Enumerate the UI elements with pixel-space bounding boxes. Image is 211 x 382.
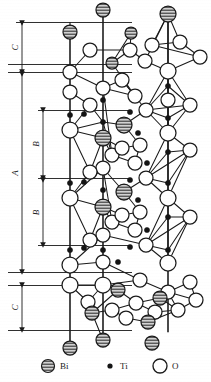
- atom-o-41: [133, 273, 147, 287]
- atom-ti-0: [100, 97, 105, 102]
- atom-ti-22: [144, 227, 149, 232]
- legend-label-bi: Bi: [60, 361, 69, 371]
- atom-ti-6: [165, 115, 170, 120]
- legend-label-o: O: [172, 361, 179, 371]
- atom-o-28: [133, 205, 147, 219]
- atom-o-15: [161, 93, 175, 107]
- atom-bi-14: [96, 333, 110, 347]
- atom-o-24: [128, 156, 142, 170]
- atom-ti-18: [67, 247, 72, 252]
- atom-ti-23: [115, 259, 120, 264]
- atom-ti-12: [165, 149, 170, 154]
- atom-o-50: [119, 311, 133, 325]
- atom-bi-4: [106, 57, 118, 69]
- atom-o-38: [96, 255, 110, 269]
- atom-o-25: [83, 165, 97, 179]
- atom-o-42: [183, 275, 197, 289]
- atom-o-10: [115, 73, 129, 87]
- atom-o-16: [62, 122, 78, 138]
- atom-ti-14: [135, 197, 140, 202]
- atom-o-47: [105, 303, 119, 317]
- atom-o-22: [62, 190, 78, 206]
- atom-o-40: [62, 277, 78, 293]
- atom-bi-6: [95, 130, 111, 146]
- atom-ti-21: [144, 160, 149, 165]
- dimension-label-c-top: C: [10, 44, 20, 51]
- atom-ti-9: [127, 177, 132, 182]
- atom-bi-2: [63, 25, 77, 39]
- atom-o-29: [183, 210, 197, 224]
- atom-ti-5: [100, 119, 105, 124]
- atom-o-20: [96, 161, 110, 175]
- figure-root: CABBC BiTiO: [0, 0, 211, 382]
- atom-o-46: [171, 303, 185, 317]
- atom-bi-9: [111, 283, 125, 297]
- atom-ti-2: [81, 111, 86, 116]
- atom-o-7: [160, 63, 176, 79]
- atom-o-49: [189, 293, 203, 307]
- atom-o-35: [139, 238, 153, 252]
- atom-ti-3: [127, 109, 132, 114]
- dimension-label-b-lower: B: [31, 209, 41, 215]
- atom-bi-0: [96, 3, 110, 17]
- atom-bi-15: [145, 336, 159, 350]
- atom-o-33: [115, 208, 129, 222]
- atom-o-11: [128, 89, 142, 103]
- atom-group: [62, 3, 207, 355]
- atom-ti-20: [165, 247, 170, 252]
- atom-ti-10: [67, 180, 72, 185]
- legend-swatch-o: [153, 359, 167, 373]
- atom-o-37: [62, 257, 78, 273]
- atom-o-12: [83, 98, 97, 112]
- legend-group: BiTiO: [42, 359, 180, 373]
- atom-o-27: [160, 190, 176, 206]
- atom-o-2: [123, 43, 137, 57]
- dimension-annotations-group: CABBC: [10, 23, 43, 330]
- atom-o-18: [133, 138, 147, 152]
- atom-o-39: [95, 277, 111, 293]
- atom-o-34: [128, 223, 142, 237]
- atom-bi-12: [141, 315, 155, 329]
- atom-o-4: [173, 35, 187, 49]
- legend-label-ti: Ti: [120, 361, 128, 371]
- atom-o-5: [193, 50, 207, 64]
- dimension-label-c-bottom: C: [10, 304, 20, 311]
- atom-ti-13: [165, 180, 170, 185]
- atom-ti-19: [165, 214, 170, 219]
- atom-o-3: [145, 38, 159, 52]
- atom-o-44: [129, 296, 143, 310]
- atom-o-6: [138, 54, 152, 68]
- atom-o-31: [96, 228, 110, 242]
- legend-swatch-bi: [42, 360, 55, 373]
- atom-o-1: [63, 65, 77, 79]
- crystal-structure-diagram: CABBC BiTiO: [0, 0, 211, 382]
- atom-o-32: [83, 233, 97, 247]
- atom-ti-8: [81, 179, 86, 184]
- atom-ti-16: [81, 245, 86, 250]
- atom-o-21: [183, 143, 197, 157]
- atom-o-8: [63, 85, 77, 99]
- atom-ti-7: [135, 130, 140, 135]
- atom-bi-7: [116, 184, 132, 200]
- atom-o-13: [139, 103, 153, 117]
- atom-o-17: [160, 125, 176, 141]
- atom-ti-17: [127, 244, 132, 249]
- atom-bi-11: [85, 306, 99, 320]
- dimension-label-b-upper: B: [31, 141, 41, 147]
- atom-ti-15: [100, 247, 105, 252]
- atom-o-14: [183, 98, 197, 112]
- atom-bi-8: [95, 199, 111, 215]
- atom-bi-3: [125, 27, 137, 39]
- atom-o-26: [139, 171, 153, 185]
- atom-bi-13: [63, 341, 77, 355]
- atom-bi-1: [160, 6, 176, 22]
- atom-ti-4: [67, 112, 72, 117]
- atom-ti-1: [165, 83, 170, 88]
- legend-swatch-ti: [107, 363, 112, 368]
- atom-o-23: [115, 141, 129, 155]
- atom-ti-11: [100, 187, 105, 192]
- atom-o-0: [83, 43, 97, 57]
- atom-bi-5: [116, 117, 132, 133]
- atom-bi-10: [153, 291, 167, 305]
- atom-o-9: [96, 81, 110, 95]
